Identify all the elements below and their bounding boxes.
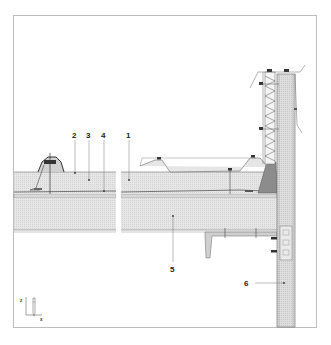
label-5: 5 — [170, 265, 175, 274]
axis-z-label: z — [20, 298, 23, 303]
steel-angle — [205, 228, 277, 258]
label-3: 3 — [86, 131, 91, 140]
axis-indicator: z x — [20, 297, 43, 322]
wedge-base-strip — [245, 190, 253, 192]
slab-layer — [14, 194, 277, 232]
section-break — [116, 160, 121, 240]
construction-detail-diagram: 2 3 4 1 5 6 z x — [0, 0, 331, 345]
label-6: 6 — [244, 279, 249, 288]
label-4: 4 — [101, 131, 106, 140]
roof-insulation-layer — [14, 172, 277, 193]
label-1: 1 — [126, 131, 131, 140]
label-2: 2 — [72, 131, 77, 140]
axis-x-label: x — [40, 317, 43, 322]
